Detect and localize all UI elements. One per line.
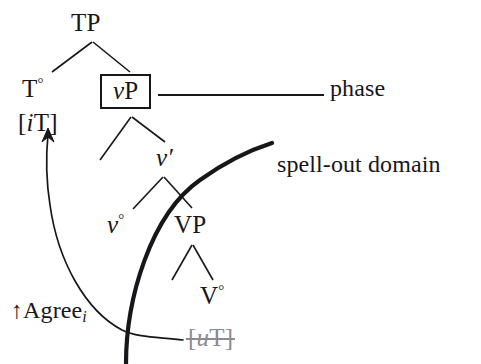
label-phase: phase [330,76,385,100]
node-VP-label: VP [174,211,206,238]
vp-box-border: vP [100,74,151,109]
agree-up-arrow-icon: ↑ [11,297,23,323]
node-it-feature[interactable]: [iT] [18,110,58,135]
vp-label-P: P [124,77,138,104]
ut-feature-T: T [209,324,224,351]
v-head-label: v [107,211,118,238]
it-bracket-close: ] [49,109,58,136]
label-spell-out-domain: spell-out domain [277,152,441,176]
ut-feature-u: u [197,324,210,351]
branch-VP-to-V0 [193,245,213,280]
it-feature-i: i [27,109,34,136]
V-head-label: V [200,282,218,309]
ut-bracket-open: [ [188,324,197,351]
node-ut-feature-deleted[interactable]: [uT] [188,325,233,350]
node-t-head[interactable]: T° [22,76,43,101]
node-VP[interactable]: VP [174,212,206,237]
label-agree-text: Agree [23,297,82,323]
node-V-head[interactable]: V° [200,283,224,308]
v-head-degree-icon: ° [118,211,124,227]
it-feature-T: T [34,109,49,136]
label-phase-text: phase [330,75,385,101]
branch-tp-to-vp [93,42,130,72]
branch-vbar-to-v0 [133,177,163,209]
ut-strikethrough: [uT] [188,325,233,350]
vbar-prime-icon: ′ [167,144,173,171]
vp-label-v: v [113,77,124,104]
vbar-label-v: v [156,144,167,171]
syntax-tree-figure: TP T° [iT] vP v′ v° VP V° [uT] phase spe… [0,0,481,364]
node-tp[interactable]: TP [71,10,101,35]
agree-index-subscript: i [82,308,87,325]
node-v-head[interactable]: v° [107,212,124,237]
it-bracket-open: [ [18,109,27,136]
branch-tp-to-t0 [52,42,92,72]
node-t-head-degree-icon: ° [37,75,43,91]
node-tp-label: TP [71,9,101,36]
branch-VP-left [172,245,192,280]
V-head-degree-icon: ° [218,282,224,298]
node-v-bar[interactable]: v′ [156,145,173,170]
label-agree: ↑Agreei [11,298,87,325]
label-spell-out-domain-text: spell-out domain [277,151,441,177]
ut-bracket-close: ] [225,324,234,351]
node-t-head-label: T [22,75,37,102]
branch-vp-to-vbar [132,117,165,142]
branch-vp-to-spec [100,117,131,160]
node-vp-phase-box[interactable]: vP [100,74,151,109]
